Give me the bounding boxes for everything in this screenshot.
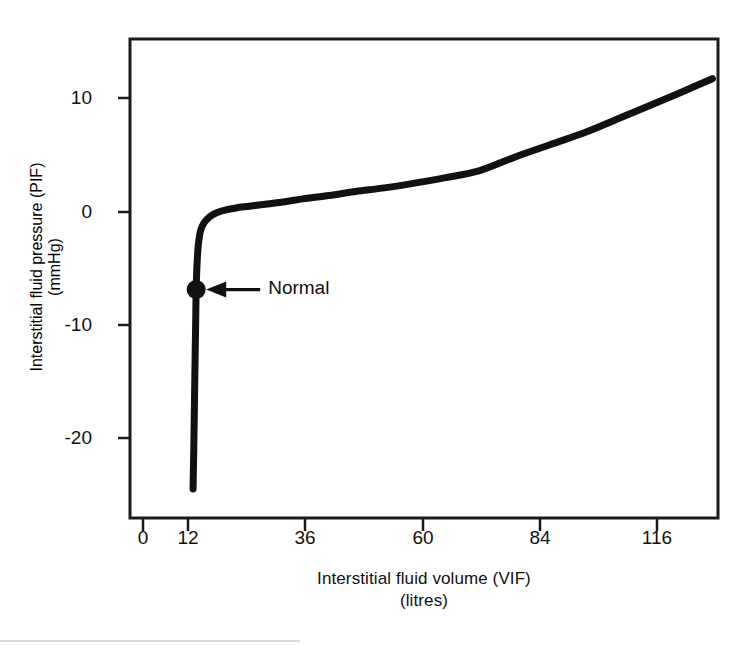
y-axis-title-line2: (mmHg): [46, 37, 64, 497]
normal-arrow-icon: [206, 282, 260, 298]
x-axis-title-line2: (litres): [130, 590, 718, 612]
normal-point-marker: [187, 280, 206, 299]
x-axis-title: Interstitial fluid volume (VIF) (litres): [130, 568, 718, 612]
figure-container: 0 12 36 60 84 116 10 0 -10 -20 Normal In…: [0, 0, 754, 645]
x-tick-label-60: 60: [412, 527, 433, 549]
x-tick-label-12: 12: [177, 527, 198, 549]
y-tick-label-0: 0: [81, 201, 92, 223]
y-axis-title-line1: Interstitial fluid pressure (PIF): [28, 37, 46, 497]
x-axis-title-line1: Interstitial fluid volume (VIF): [130, 568, 718, 590]
normal-annotation-label: Normal: [268, 277, 329, 299]
y-axis-ticks: [118, 98, 130, 438]
x-axis-ticks: [143, 519, 657, 531]
x-tick-label-116: 116: [642, 527, 672, 549]
x-tick-label-0: 0: [138, 527, 149, 549]
y-axis-title: Interstitial fluid pressure (PIF) (mmHg): [28, 37, 76, 497]
page-bottom-rule: [0, 640, 300, 642]
x-tick-label-84: 84: [529, 527, 550, 549]
x-tick-label-36: 36: [294, 527, 315, 549]
